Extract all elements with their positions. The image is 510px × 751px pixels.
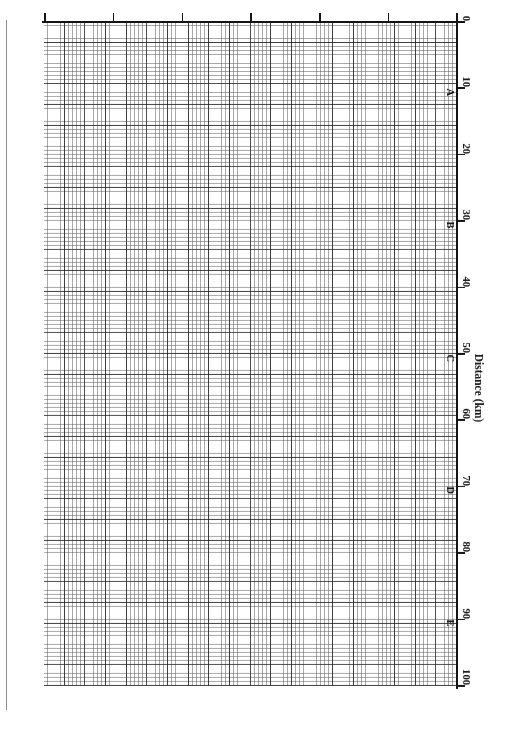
marker-e: E [446,620,457,627]
price-tick-label-0: 0 [451,0,463,5]
price-tick-label-30: 30 [245,0,257,5]
price-tick-40 [182,13,184,21]
price-tick-10 [388,13,390,21]
distance-tick-label-20: 20 [461,136,473,154]
distance-tick-50 [457,353,465,355]
distance-tick-label-50: 50 [461,335,473,353]
distance-tick-80 [457,552,465,554]
distance-tick-70 [457,486,465,488]
distance-tick-label-30: 30 [461,202,473,220]
price-tick-50 [113,13,115,21]
distance-tick-60 [457,419,465,421]
price-tick-0 [456,13,458,21]
distance-tick-0 [457,21,465,23]
page-edge-line [6,20,7,710]
price-tick-20 [319,13,321,21]
distance-tick-100 [457,685,465,687]
plot-area: 0 10 20 30 40 50 60 70 80 90 100 0 10 20… [44,22,457,686]
price-tick-label-10: 10 [382,0,394,5]
distance-tick-label-10: 10 [461,69,473,87]
distance-tick-10 [457,87,465,89]
distance-tick-label-0: 0 [461,3,473,21]
price-tick-label-20: 20 [314,0,326,5]
marker-c: C [446,354,457,362]
price-tick-label-60: 60 [39,0,51,5]
distance-axis-title: Distance (km) [473,328,485,448]
price-tick-label-50: 50 [108,0,120,5]
price-axis-line [42,21,458,23]
distance-tick-label-90: 90 [461,601,473,619]
distance-tick-label-60: 60 [461,401,473,419]
distance-tick-label-70: 70 [461,468,473,486]
price-tick-60 [44,13,46,21]
distance-tick-label-100: 100 [461,667,473,685]
distance-tick-30 [457,220,465,222]
distance-tick-label-40: 40 [461,269,473,287]
marker-b: B [446,221,457,228]
price-tick-30 [250,13,252,21]
marker-a: A [446,89,457,97]
marker-d: D [446,487,457,495]
graph-paper-grid [44,22,457,686]
distance-tick-label-80: 80 [461,534,473,552]
price-tick-label-40: 40 [176,0,188,5]
distance-tick-20 [457,154,465,156]
scanned-page: 0 10 20 30 40 50 60 70 80 90 100 0 10 20… [0,0,510,751]
